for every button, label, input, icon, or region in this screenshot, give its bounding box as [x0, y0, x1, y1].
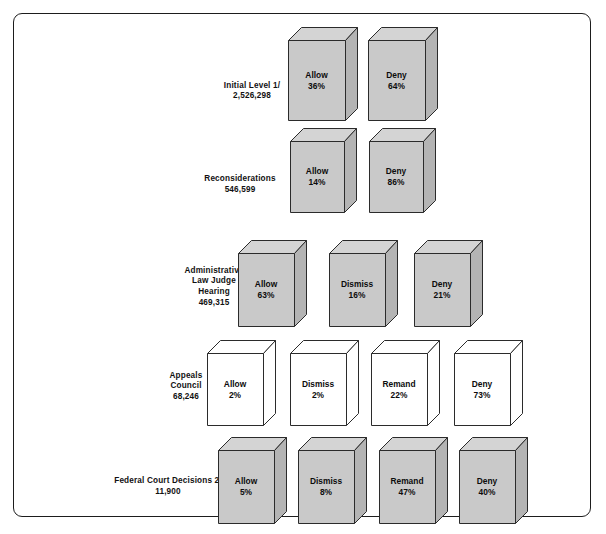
box-front-face	[380, 451, 436, 524]
box-side-face	[436, 438, 448, 524]
box-front-face	[372, 354, 428, 426]
box-3d-shape	[329, 240, 398, 327]
outcome-box: Dismiss16%	[329, 240, 398, 327]
box-3d-shape	[290, 340, 359, 426]
box-3d-shape	[288, 27, 358, 121]
box-front-face	[291, 142, 345, 213]
box-front-face	[455, 354, 511, 426]
box-3d-shape	[238, 240, 307, 327]
outcome-box: Allow63%	[238, 240, 307, 327]
outcome-box: Deny21%	[414, 240, 483, 327]
box-side-face	[386, 241, 398, 327]
box-side-face	[355, 438, 367, 524]
outcome-box: Deny73%	[454, 340, 523, 426]
box-3d-shape	[414, 240, 483, 327]
outcome-box: Deny64%	[368, 27, 438, 121]
box-side-face	[264, 341, 276, 426]
outcome-box: Remand22%	[371, 340, 440, 426]
box-side-face	[347, 341, 359, 426]
box-front-face	[299, 451, 355, 524]
box-front-face	[370, 142, 424, 213]
box-3d-shape	[298, 437, 367, 524]
box-front-face	[208, 354, 264, 426]
box-3d-shape	[379, 437, 448, 524]
box-front-face	[219, 451, 275, 524]
outcome-box: Allow36%	[288, 27, 358, 121]
box-side-face	[426, 28, 438, 121]
box-front-face	[239, 254, 295, 327]
box-front-face	[415, 254, 471, 327]
box-3d-shape	[207, 340, 276, 426]
box-side-face	[345, 129, 357, 213]
outcome-box: Allow14%	[290, 128, 357, 213]
box-3d-shape	[369, 128, 436, 213]
box-side-face	[275, 438, 287, 524]
box-front-face	[289, 41, 346, 121]
box-front-face	[330, 254, 386, 327]
box-3d-shape	[218, 437, 287, 524]
outcome-box: Deny86%	[369, 128, 436, 213]
box-front-face	[460, 451, 516, 524]
box-3d-shape	[454, 340, 523, 426]
box-side-face	[516, 438, 528, 524]
outcome-box: Allow2%	[207, 340, 276, 426]
box-side-face	[511, 341, 523, 426]
box-front-face	[369, 41, 426, 121]
box-3d-shape	[459, 437, 528, 524]
outcome-box: Remand47%	[379, 437, 448, 524]
box-3d-shape	[368, 27, 438, 121]
box-side-face	[346, 28, 358, 121]
box-side-face	[428, 341, 440, 426]
box-front-face	[291, 354, 347, 426]
outcome-box: Dismiss2%	[290, 340, 359, 426]
box-side-face	[424, 129, 436, 213]
outcome-box: Deny40%	[459, 437, 528, 524]
box-side-face	[295, 241, 307, 327]
outcome-box: Allow5%	[218, 437, 287, 524]
outcome-box: Dismiss8%	[298, 437, 367, 524]
box-3d-shape	[371, 340, 440, 426]
box-side-face	[471, 241, 483, 327]
box-3d-shape	[290, 128, 357, 213]
